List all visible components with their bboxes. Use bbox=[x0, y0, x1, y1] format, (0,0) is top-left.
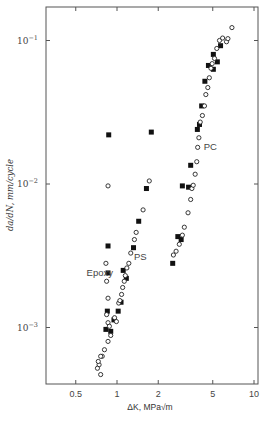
data-points bbox=[95, 25, 234, 376]
series-label-ps: PS bbox=[134, 251, 147, 262]
circle-marker bbox=[189, 197, 193, 201]
circle-marker bbox=[177, 242, 181, 246]
circle-marker bbox=[106, 339, 110, 343]
circle-marker bbox=[182, 225, 186, 229]
circle-marker bbox=[99, 372, 103, 376]
square-marker bbox=[202, 79, 207, 84]
y-axis-title: da/dN, mm/cycle bbox=[5, 159, 15, 231]
square-marker bbox=[180, 183, 185, 188]
circle-marker bbox=[204, 92, 208, 96]
y-tick-label: 10−1 bbox=[17, 34, 38, 46]
circle-marker bbox=[230, 25, 234, 29]
circle-marker bbox=[121, 285, 125, 289]
x-tick-label: 2 bbox=[156, 389, 161, 399]
circle-marker bbox=[147, 179, 151, 183]
circle-marker bbox=[226, 37, 230, 41]
circle-marker bbox=[114, 319, 118, 323]
circle-marker bbox=[191, 183, 195, 187]
circle-marker bbox=[207, 76, 211, 80]
square-marker bbox=[136, 219, 141, 224]
circle-marker bbox=[122, 279, 126, 283]
square-marker bbox=[144, 186, 149, 191]
circle-marker bbox=[198, 120, 202, 124]
x-axis-title: ΔK, MPa√m bbox=[127, 402, 172, 412]
square-marker bbox=[116, 309, 121, 314]
circle-marker bbox=[127, 261, 131, 265]
circle-marker bbox=[195, 160, 199, 164]
circle-marker bbox=[180, 233, 184, 237]
circle-marker bbox=[221, 36, 225, 40]
series-label-epoxy: Epoxy bbox=[87, 267, 114, 278]
series-label-pc: PC bbox=[204, 141, 217, 152]
square-marker bbox=[188, 163, 193, 168]
circle-marker bbox=[102, 348, 106, 352]
x-axis-ticks: 0.512510 bbox=[70, 7, 260, 399]
circle-marker bbox=[129, 251, 133, 255]
circle-marker bbox=[106, 184, 110, 188]
circle-marker bbox=[132, 237, 136, 241]
circle-marker bbox=[96, 359, 100, 363]
y-tick-label: 10−3 bbox=[17, 321, 38, 333]
circle-marker bbox=[95, 366, 99, 370]
circle-marker bbox=[193, 172, 197, 176]
circle-marker bbox=[171, 253, 175, 257]
circle-marker bbox=[196, 145, 200, 149]
circle-marker bbox=[200, 113, 204, 117]
square-marker bbox=[106, 132, 111, 137]
square-marker bbox=[106, 243, 111, 248]
circle-marker bbox=[210, 62, 214, 66]
circle-marker bbox=[105, 279, 109, 283]
x-tick-label: 5 bbox=[210, 389, 215, 399]
circle-marker bbox=[141, 208, 145, 212]
square-marker bbox=[131, 245, 136, 250]
square-marker bbox=[179, 237, 184, 242]
circle-marker bbox=[104, 261, 108, 265]
circle-marker bbox=[212, 56, 216, 60]
circle-marker bbox=[174, 249, 178, 253]
square-marker bbox=[195, 127, 200, 132]
square-marker bbox=[170, 261, 175, 266]
x-tick-label: 10 bbox=[249, 389, 259, 399]
x-tick-label: 0.5 bbox=[70, 389, 83, 399]
circle-marker bbox=[202, 104, 206, 108]
circle-marker bbox=[123, 273, 127, 277]
square-marker bbox=[149, 130, 154, 135]
circle-marker bbox=[215, 46, 219, 50]
circle-marker bbox=[125, 266, 129, 270]
circle-marker bbox=[119, 292, 123, 296]
y-axis-ticks: 10−110−210−3 bbox=[17, 34, 258, 333]
plot-frame bbox=[46, 7, 258, 384]
y-tick-label: 10−2 bbox=[17, 177, 38, 189]
circle-marker bbox=[118, 298, 122, 302]
x-tick-label: 1 bbox=[114, 389, 119, 399]
circle-marker bbox=[197, 136, 201, 140]
circle-marker bbox=[105, 312, 109, 316]
circle-marker bbox=[134, 230, 138, 234]
circle-marker bbox=[107, 324, 111, 328]
circle-marker bbox=[106, 296, 110, 300]
circle-marker bbox=[209, 66, 213, 70]
circle-marker bbox=[206, 85, 210, 89]
chart: 0.512510 10−110−210−3 EpoxyPSPC ΔK, MPa√… bbox=[0, 0, 266, 422]
circle-marker bbox=[186, 211, 190, 215]
circle-marker bbox=[99, 354, 103, 358]
circle-marker bbox=[109, 333, 113, 337]
